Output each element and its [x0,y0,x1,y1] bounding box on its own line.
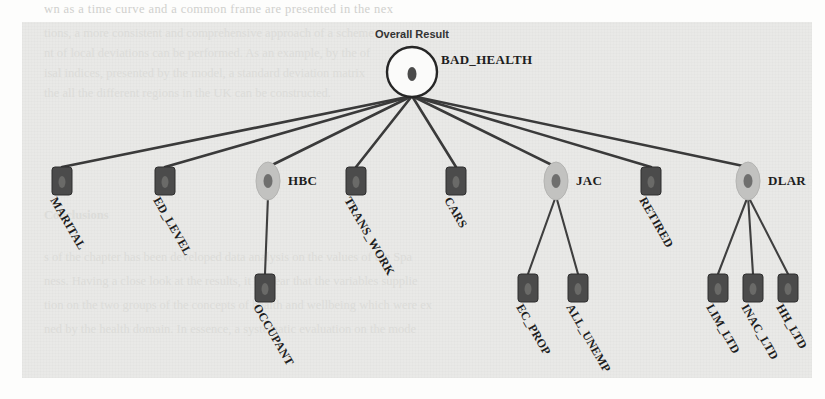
node-label-hh_ltd: HH_LTD [773,302,810,352]
node-retired[interactable] [641,167,661,195]
node-root[interactable] [387,47,437,97]
node-label-marital: MARITAL [47,195,88,253]
edge-jac-to-ec_prop [528,196,556,274]
figure-title: Overall Result [375,28,449,40]
scanned-page: wn as a time curve and a common frame ar… [0,0,825,399]
node-all_unemp[interactable] [568,274,588,302]
node-label-ed_level: ED_LEVEL [150,195,195,258]
node-occupant[interactable] [255,274,275,302]
node-lim_ltd[interactable] [708,274,728,302]
node-label-occupant: OCCUPANT [250,302,296,369]
node-ec_prop[interactable] [518,274,538,302]
edge-root-to-marital [62,96,412,167]
edge-dlar-to-hh_ltd [748,196,788,274]
node-jac[interactable] [544,162,568,200]
node-label-cars: CARS [441,195,470,231]
node-label-retired: RETIRED [636,195,676,251]
edge-jac-to-all_unemp [556,196,578,274]
node-ed_level[interactable] [155,167,175,195]
node-label-ec_prop: EC_PROP [513,302,553,358]
node-cars[interactable] [446,167,466,195]
network-diagram: BAD_HEALTHMARITALED_LEVELHBCTRANS_WORKCA… [0,0,825,399]
node-dlar[interactable] [736,162,760,200]
edge-dlar-to-lim_ltd [718,196,748,274]
edge-root-to-dlar [412,96,748,167]
node-marital[interactable] [52,167,72,195]
edge-hbc-to-occupant [265,196,268,274]
node-label-root: BAD_HEALTH [441,52,532,67]
nodes-layer [52,47,798,302]
edge-dlar-to-inac_ltd [748,196,753,274]
node-trans_work[interactable] [346,167,366,195]
node-label-lim_ltd: LIM_LTD [703,302,743,357]
node-label-all_unemp: ALL_UNEMP [563,302,613,375]
node-hbc[interactable] [256,162,280,200]
node-inac_ltd[interactable] [743,274,763,302]
node-hh_ltd[interactable] [778,274,798,302]
node-label-trans_work: TRANS_WORK [341,195,397,279]
node-label-dlar: DLAR [768,173,806,188]
node-root-marker [408,67,417,81]
node-label-hbc: HBC [288,173,317,188]
node-label-jac: JAC [576,173,602,188]
